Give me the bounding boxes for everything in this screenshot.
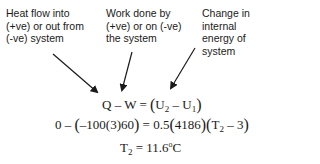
eq1-close-paren: ) xyxy=(196,96,201,113)
eq2-part5: = 0.5 xyxy=(139,117,169,132)
eq2-close4: ) xyxy=(243,116,248,133)
internal-arrow-icon xyxy=(171,48,195,88)
work-arrow-icon xyxy=(122,52,132,90)
eq2-part2: –100 xyxy=(80,117,106,132)
eq1-u2: U xyxy=(155,97,164,112)
first-law-equation: Q – W = (U2 – U1) xyxy=(102,96,201,114)
eq1-minus: – xyxy=(169,97,182,112)
eq2-part4: 60 xyxy=(121,117,134,132)
eq3-value: = 11.6 xyxy=(132,140,168,155)
substituted-equation: 0 – (–100(3)60) = 0.5(4186)(T2 – 3) xyxy=(55,116,249,134)
eq2-part6: 4186 xyxy=(175,117,201,132)
eq2-part1: 0 – xyxy=(55,117,75,132)
eq1-lhs: Q – W = xyxy=(102,97,150,112)
eq3-t: T xyxy=(120,140,128,155)
eq2-part7: – 3 xyxy=(224,117,244,132)
eq1-u1: U xyxy=(182,97,191,112)
result-equation: T2 = 11.6oC xyxy=(120,140,181,157)
heat-arrow-icon xyxy=(53,54,97,92)
eq3-unit: C xyxy=(173,140,182,155)
